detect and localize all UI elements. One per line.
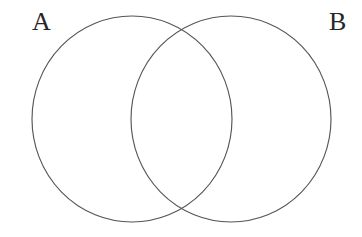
venn-diagram-canvas <box>0 0 362 237</box>
venn-diagram: A B <box>0 0 362 237</box>
set-label-a: A <box>32 9 51 35</box>
set-label-b: B <box>329 9 346 35</box>
set-circle-b[interactable] <box>131 16 331 222</box>
set-circle-a[interactable] <box>32 16 232 222</box>
